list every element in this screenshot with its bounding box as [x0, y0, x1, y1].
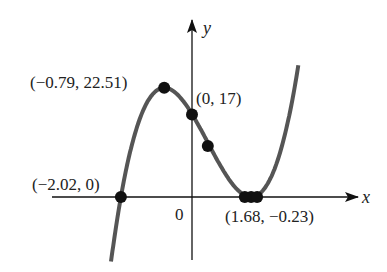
x-axis-label: x — [361, 187, 370, 207]
origin-label: 0 — [175, 205, 184, 224]
data-point — [251, 191, 263, 203]
y-axis-label: y — [201, 18, 211, 38]
data-point — [186, 109, 198, 121]
data-point — [115, 191, 127, 203]
point-label-max: (−0.79, 22.51) — [30, 73, 127, 92]
point-label-min: (1.68, −0.23) — [225, 207, 314, 226]
cubic-graph: y x 0 (−2.02, 0) (−0.79, 22.51) (0, 17) … — [0, 0, 387, 272]
data-point — [239, 191, 251, 203]
data-point — [158, 82, 170, 94]
data-point — [202, 140, 214, 152]
point-label-root: (−2.02, 0) — [32, 175, 100, 194]
point-label-yint: (0, 17) — [196, 89, 241, 108]
